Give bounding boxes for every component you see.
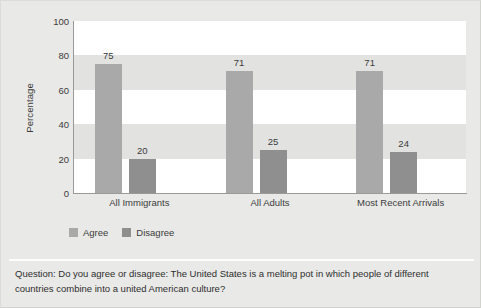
footer-divider bbox=[9, 259, 474, 261]
bar-value-label: 71 bbox=[364, 57, 375, 68]
legend-swatch-icon bbox=[69, 228, 78, 237]
legend-item[interactable]: Disagree bbox=[122, 227, 174, 238]
question-note-line-2: countries combine into a united American… bbox=[15, 282, 467, 297]
y-tick-label: 60 bbox=[41, 84, 69, 95]
bar-agree bbox=[95, 64, 122, 193]
y-tick-label: 0 bbox=[41, 188, 69, 199]
bar-disagree bbox=[129, 159, 156, 193]
y-axis-line bbox=[73, 21, 74, 194]
chart-legend: AgreeDisagree bbox=[69, 227, 174, 238]
chart-figure: Percentage 020406080100 7520All Immigran… bbox=[0, 0, 481, 308]
bar-value-label: 75 bbox=[103, 50, 114, 61]
legend-label: Disagree bbox=[136, 227, 174, 238]
x-axis-line bbox=[73, 193, 467, 194]
y-axis-tick-labels: 020406080100 bbox=[41, 21, 69, 193]
legend-swatch-icon bbox=[122, 228, 131, 237]
y-tick-label: 80 bbox=[41, 50, 69, 61]
question-note-line-1: Question: Do you agree or disagree: The … bbox=[15, 267, 467, 282]
y-tick-label: 100 bbox=[41, 16, 69, 27]
bar-agree bbox=[356, 71, 383, 193]
plot-band bbox=[74, 21, 466, 55]
x-category-label: Most Recent Arrivals bbox=[357, 197, 444, 208]
bar-value-label: 20 bbox=[137, 145, 148, 156]
bar-agree bbox=[226, 71, 253, 193]
legend-label: Agree bbox=[83, 227, 108, 238]
y-tick-label: 40 bbox=[41, 119, 69, 130]
legend-item[interactable]: Agree bbox=[69, 227, 108, 238]
bar-disagree bbox=[260, 150, 287, 193]
bar-value-label: 25 bbox=[268, 136, 279, 147]
bar-chart: Percentage 020406080100 7520All Immigran… bbox=[1, 1, 481, 251]
bar-value-label: 24 bbox=[398, 138, 409, 149]
x-category-label: All Adults bbox=[250, 197, 289, 208]
x-category-label: All Immigrants bbox=[109, 197, 169, 208]
plot-band bbox=[74, 55, 466, 89]
y-axis-title: Percentage bbox=[24, 63, 38, 153]
bar-disagree bbox=[390, 152, 417, 193]
plot-area bbox=[74, 21, 466, 193]
bar-value-label: 71 bbox=[234, 57, 245, 68]
plot-band bbox=[74, 90, 466, 124]
y-tick-label: 20 bbox=[41, 153, 69, 164]
question-note: Question: Do you agree or disagree: The … bbox=[15, 267, 467, 296]
